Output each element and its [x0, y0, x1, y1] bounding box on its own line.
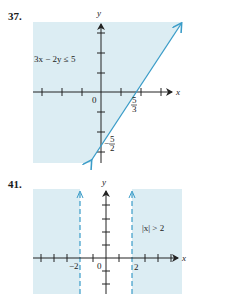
x-axis-label-37: x — [175, 87, 180, 97]
solution-region-41-left — [33, 189, 80, 294]
y-intercept-denominator: 2 — [110, 143, 115, 153]
solution-region-41-right — [132, 189, 182, 294]
origin-label-37: 0 — [92, 95, 97, 105]
y-axis-label-41: y — [101, 177, 106, 187]
graph-37: x y 0 3x − 2y ≤ 5 5 3 − 5 2 x y 0 −2 2 — [0, 0, 240, 294]
y-axis-label-37: y — [96, 8, 101, 18]
origin-label-41: 0 — [97, 261, 102, 271]
inequality-41: |x| > 2 — [142, 223, 164, 233]
x-intercept-denominator: 3 — [132, 104, 137, 114]
left-boundary-label: −2 — [69, 261, 79, 271]
x-axis-label-41: x — [181, 253, 186, 263]
y-intercept-sign: − — [104, 138, 109, 148]
inequality-37: 3x − 2y ≤ 5 — [34, 54, 76, 64]
right-boundary-label: 2 — [134, 262, 139, 272]
